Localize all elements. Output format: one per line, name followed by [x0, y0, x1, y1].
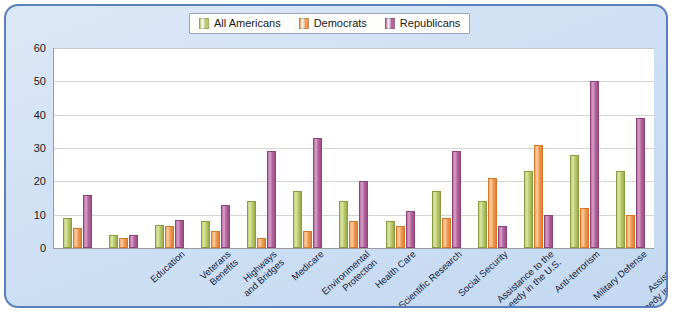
legend-swatch-icon	[299, 18, 309, 29]
legend-label: Democrats	[314, 18, 367, 29]
bar-group	[469, 48, 515, 248]
y-tick-label: 60	[6, 43, 46, 54]
y-tick-label: 10	[6, 209, 46, 220]
bar[interactable]	[590, 81, 599, 248]
legend-label: All Americans	[214, 18, 281, 29]
bar[interactable]	[452, 151, 461, 248]
bar[interactable]	[175, 220, 184, 248]
bar-group	[516, 48, 562, 248]
bar-group	[239, 48, 285, 248]
bar[interactable]	[83, 195, 92, 248]
bar[interactable]	[534, 145, 543, 248]
bar[interactable]	[359, 181, 368, 248]
bar[interactable]	[313, 138, 322, 248]
bar[interactable]	[406, 211, 415, 248]
chart-legend: All AmericansDemocratsRepublicans	[189, 13, 470, 34]
legend-swatch-icon	[199, 18, 209, 29]
bar-group	[608, 48, 654, 248]
bar[interactable]	[257, 238, 266, 248]
bar[interactable]	[339, 201, 348, 248]
plot-area	[53, 48, 654, 249]
bar-group	[331, 48, 377, 248]
bar[interactable]	[293, 191, 302, 248]
bar[interactable]	[570, 155, 579, 248]
bar[interactable]	[616, 171, 625, 248]
bar[interactable]	[544, 215, 553, 248]
bar[interactable]	[165, 226, 174, 248]
bar[interactable]	[432, 191, 441, 248]
bar-group	[100, 48, 146, 248]
legend-item-1[interactable]: Democrats	[299, 18, 367, 29]
bar[interactable]	[63, 218, 72, 248]
bar[interactable]	[396, 226, 405, 248]
bar-group	[285, 48, 331, 248]
y-tick-label: 0	[6, 243, 46, 254]
bar[interactable]	[119, 238, 128, 248]
bar[interactable]	[73, 228, 82, 248]
chart-frame: All AmericansDemocratsRepublicans 010203…	[4, 4, 668, 308]
y-tick-label: 20	[6, 176, 46, 187]
bar[interactable]	[386, 221, 395, 248]
bar-group	[192, 48, 238, 248]
y-tick-label: 40	[6, 109, 46, 120]
bar[interactable]	[201, 221, 210, 248]
bar[interactable]	[478, 201, 487, 248]
bar[interactable]	[303, 231, 312, 248]
x-axis-labels: EducationVeterans BenefitsHighways and B…	[53, 249, 653, 308]
bar[interactable]	[626, 215, 635, 248]
bar[interactable]	[636, 118, 645, 248]
bar[interactable]	[155, 225, 164, 248]
legend-item-0[interactable]: All Americans	[199, 18, 281, 29]
bar-group	[562, 48, 608, 248]
bar[interactable]	[349, 221, 358, 248]
bar[interactable]	[524, 171, 533, 248]
bar[interactable]	[488, 178, 497, 248]
bar[interactable]	[267, 151, 276, 248]
legend-swatch-icon	[385, 18, 395, 29]
bar[interactable]	[211, 231, 220, 248]
bar-group	[423, 48, 469, 248]
legend-item-2[interactable]: Republicans	[385, 18, 461, 29]
bar[interactable]	[221, 205, 230, 248]
bar-group	[54, 48, 100, 248]
bar[interactable]	[109, 235, 118, 248]
bar[interactable]	[442, 218, 451, 248]
bar-group	[377, 48, 423, 248]
bar[interactable]	[498, 226, 507, 248]
legend-label: Republicans	[400, 18, 461, 29]
y-tick-label: 30	[6, 143, 46, 154]
bar[interactable]	[580, 208, 589, 248]
y-tick-label: 50	[6, 76, 46, 87]
bar-group	[146, 48, 192, 248]
x-tick-label: Assistance to the unemployed	[667, 249, 668, 308]
bar[interactable]	[129, 235, 138, 248]
bar[interactable]	[247, 201, 256, 248]
